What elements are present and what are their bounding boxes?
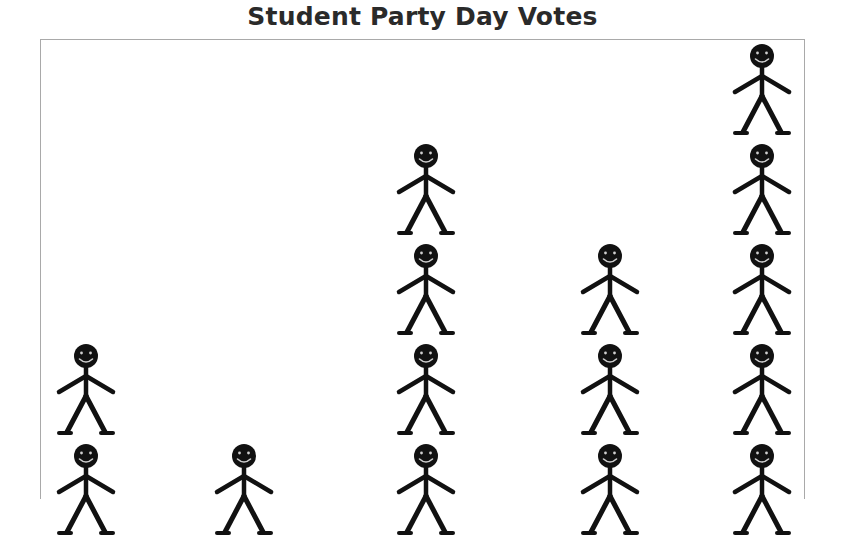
person-icon xyxy=(395,444,457,536)
person-icon xyxy=(579,244,641,336)
person-icon xyxy=(579,444,641,536)
person-icon xyxy=(579,344,641,436)
person-icon xyxy=(731,344,793,436)
person-icon xyxy=(731,444,793,536)
person-icon xyxy=(731,144,793,236)
person-icon xyxy=(395,144,457,236)
person-icon xyxy=(213,444,275,536)
person-icon xyxy=(731,44,793,136)
chart-title: Student Party Day Votes xyxy=(0,2,845,31)
person-icon xyxy=(395,344,457,436)
person-icon xyxy=(395,244,457,336)
person-icon xyxy=(731,244,793,336)
person-icon xyxy=(55,344,117,436)
person-icon xyxy=(55,444,117,536)
